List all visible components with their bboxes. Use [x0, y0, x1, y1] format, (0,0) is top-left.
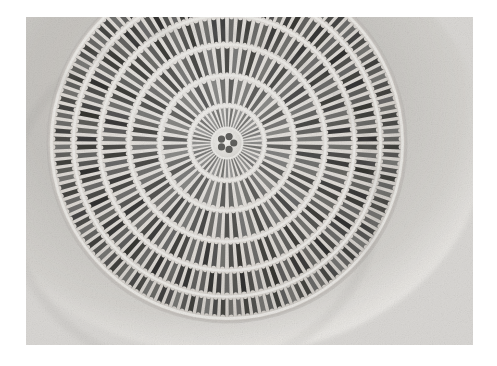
micrograph-photo — [26, 17, 473, 345]
film-grain — [26, 17, 473, 345]
diatom-drawing — [26, 17, 473, 345]
plate-page — [0, 0, 497, 366]
